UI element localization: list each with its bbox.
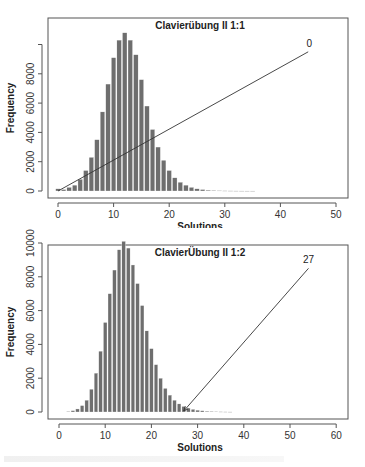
y-tick-label: 8000 — [25, 265, 36, 288]
histogram-bar — [139, 80, 144, 191]
histogram-bar — [90, 389, 94, 412]
histogram-bar — [67, 187, 72, 191]
annotation-line — [58, 52, 308, 191]
x-tick-label: 50 — [330, 209, 342, 220]
histogram-bar — [122, 241, 126, 412]
x-tick-label: 30 — [219, 209, 231, 220]
annotation-arrow — [184, 268, 309, 411]
histogram-bar — [161, 160, 166, 191]
cropped-caption — [4, 456, 284, 462]
y-axis-label: Frequency — [5, 82, 16, 133]
histogram-bar — [106, 84, 111, 191]
histogram-bar — [122, 33, 127, 191]
histogram-bar — [126, 248, 130, 412]
histogram-bar — [134, 55, 139, 191]
histogram-bar — [103, 322, 107, 412]
y-axis-label: Frequency — [5, 306, 16, 357]
x-tick-label: 20 — [146, 430, 158, 441]
histogram-bar — [131, 265, 135, 412]
chart-title: ClavierÜbung II 1:2 — [155, 246, 246, 258]
y-tick-label: 10000 — [25, 229, 36, 257]
histogram-bar — [191, 409, 195, 412]
histogram-bar — [117, 40, 122, 191]
histogram-bar — [205, 411, 209, 412]
histogram-bar — [136, 284, 140, 412]
annotation-label: 27 — [303, 254, 315, 265]
histogram-bar — [167, 170, 172, 191]
histogram-bar — [71, 411, 75, 412]
histogram-bar — [84, 170, 89, 191]
y-tick-label: 4000 — [25, 333, 36, 356]
chart-2-svg: 0102030405060Solutions020004000600080001… — [0, 228, 365, 458]
histogram-bar — [159, 378, 163, 412]
x-axis-label: Solutions — [177, 442, 223, 453]
histogram-bar — [156, 147, 161, 191]
x-tick-label: 60 — [331, 430, 343, 441]
histogram-bar — [150, 349, 154, 412]
histogram-bar — [140, 306, 144, 412]
histogram-chart-2: 0102030405060Solutions020004000600080001… — [0, 228, 365, 458]
histogram-bar — [178, 182, 183, 191]
histogram-bar — [100, 112, 105, 191]
y-tick-label: 0 — [25, 188, 36, 194]
x-tick-label: 0 — [55, 209, 61, 220]
x-tick-label: 10 — [108, 209, 120, 220]
annotation-label: 0 — [306, 38, 312, 49]
histogram-bar — [95, 140, 100, 191]
histogram-bar — [94, 373, 98, 412]
histogram-bar — [172, 178, 177, 191]
histogram-bar — [72, 185, 77, 191]
histogram-bar — [195, 189, 200, 191]
y-tick-label: 2000 — [25, 367, 36, 390]
histogram-bar — [85, 400, 89, 412]
histogram-bar — [200, 411, 204, 412]
histogram-bar — [89, 157, 94, 191]
x-tick-label: 50 — [284, 430, 296, 441]
y-tick-label: 6000 — [25, 92, 36, 115]
y-tick-label: 8000 — [25, 62, 36, 85]
histogram-bar — [196, 410, 200, 412]
histogram-bar — [66, 411, 70, 412]
histogram-bar — [111, 58, 116, 191]
x-tick-label: 20 — [164, 209, 176, 220]
y-tick-label: 4000 — [25, 121, 36, 144]
histogram-bar — [128, 40, 133, 191]
y-tick-label: 2000 — [25, 150, 36, 173]
histogram-bar — [163, 388, 167, 412]
chart-1-svg: 01020304050Solutions02000400060008000Fre… — [0, 0, 365, 228]
histogram-bar — [61, 190, 66, 191]
histogram-bar — [173, 400, 177, 412]
chart-title: Clavierübung II 1:1 — [155, 20, 245, 31]
histogram-bar — [99, 351, 103, 412]
histogram-bar — [78, 179, 83, 191]
histogram-bar — [206, 190, 211, 191]
histogram-bar — [177, 404, 181, 412]
histogram-bar — [80, 406, 84, 412]
x-tick-label: 30 — [192, 430, 204, 441]
histogram-bar — [154, 365, 158, 412]
x-tick-label: 40 — [238, 430, 250, 441]
y-tick-label: 6000 — [25, 299, 36, 322]
x-tick-label: 10 — [100, 430, 112, 441]
histogram-bar — [145, 106, 150, 191]
histogram-bar — [117, 250, 121, 412]
x-tick-label: 0 — [56, 430, 62, 441]
histogram-bar — [200, 190, 205, 191]
histogram-bar — [210, 411, 214, 412]
histogram-bar — [189, 187, 194, 191]
histogram-bar — [145, 331, 149, 412]
histogram-chart-1: 01020304050Solutions02000400060008000Fre… — [0, 0, 365, 228]
histogram-bar — [113, 270, 117, 412]
histogram-bar — [184, 185, 189, 191]
histogram-bar — [76, 409, 80, 412]
x-axis-label: Solutions — [177, 221, 223, 228]
x-tick-label: 40 — [275, 209, 287, 220]
histogram-bar — [108, 294, 112, 412]
histogram-bar — [168, 395, 172, 412]
histogram-bar — [187, 408, 191, 412]
histogram-bar — [211, 190, 216, 191]
y-tick-label: 0 — [25, 409, 36, 415]
